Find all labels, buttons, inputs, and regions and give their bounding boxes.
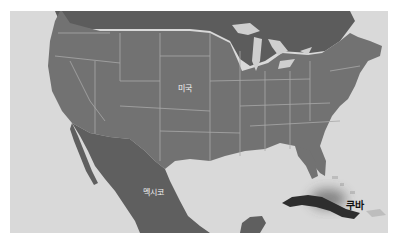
label-cuba: 쿠바 [346,197,364,212]
map-frame: 미국 멕시코 쿠바 [10,11,388,233]
map-canvas [10,11,388,233]
label-usa: 미국 [178,82,192,93]
label-mexico: 멕시코 [143,186,164,197]
